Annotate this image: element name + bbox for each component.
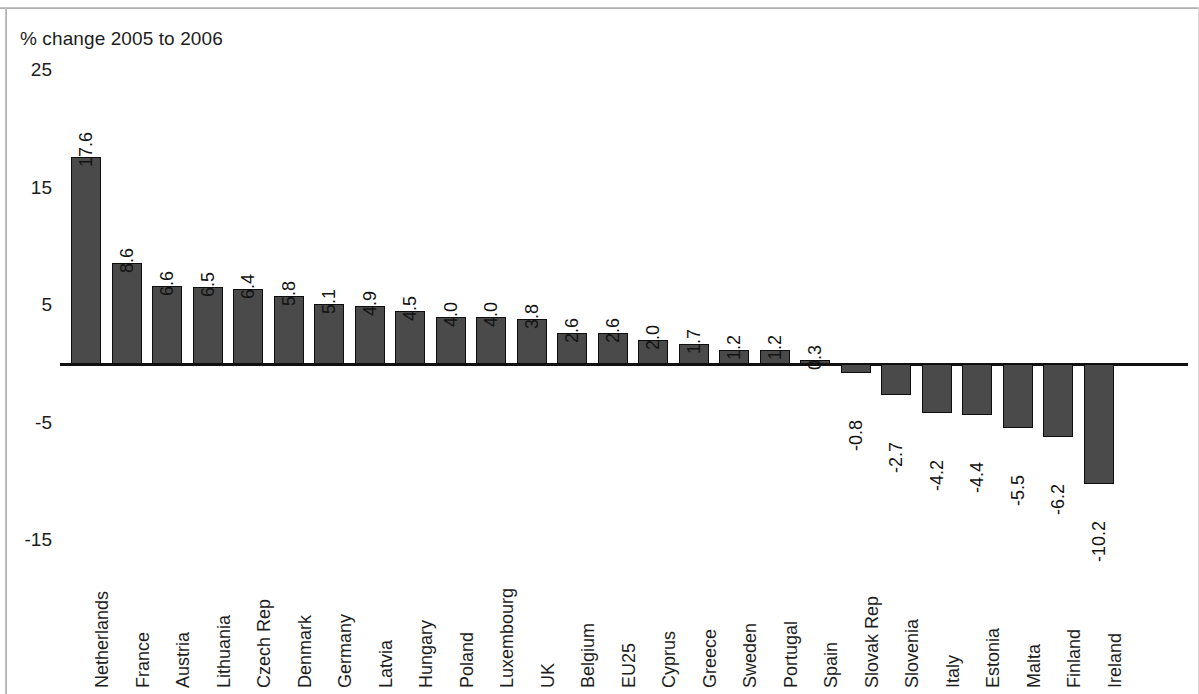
x-category-label: Austria — [174, 632, 192, 688]
bar-value-label: -0.8 — [847, 420, 865, 451]
x-category-label: Poland — [458, 632, 476, 688]
x-category-label: Latvia — [377, 640, 395, 688]
bar-value-label: 6.5 — [199, 272, 217, 297]
x-category-label: Czech Rep — [255, 599, 273, 688]
x-category-label: Lithuania — [215, 615, 233, 688]
x-category-label: France — [134, 632, 152, 688]
bar-value-label: 17.6 — [77, 132, 95, 167]
bar-value-label: 1.2 — [725, 335, 743, 360]
chart-title: % change 2005 to 2006 — [20, 28, 223, 50]
bar — [962, 364, 992, 416]
x-category-label: Belgium — [579, 623, 597, 688]
bar-value-label: 4.0 — [442, 302, 460, 327]
x-category-label: EU25 — [620, 643, 638, 688]
x-category-label: Estonia — [984, 628, 1002, 688]
bar-value-label: -2.7 — [887, 442, 905, 473]
bar-value-label: 8.6 — [118, 248, 136, 273]
bar-value-label: 6.6 — [158, 271, 176, 296]
bar-value-label: 1.2 — [766, 335, 784, 360]
bar-value-label: 6.4 — [239, 274, 257, 299]
bar-value-label: 2.0 — [644, 325, 662, 350]
bar-value-label: 2.6 — [604, 318, 622, 343]
x-category-label: Hungary — [417, 620, 435, 688]
bar — [881, 364, 911, 396]
x-category-label: Slovak Rep — [863, 596, 881, 688]
bar — [71, 157, 101, 364]
x-category-label: Finland — [1065, 629, 1083, 688]
x-category-label: Slovenia — [903, 619, 921, 688]
x-category-label: Italy — [944, 655, 962, 688]
y-tick-label: -15 — [0, 530, 52, 549]
bar-value-label: 1.7 — [685, 329, 703, 354]
bar-value-label: -5.5 — [1009, 475, 1027, 506]
bar — [1043, 364, 1073, 437]
y-tick-label: 15 — [0, 178, 52, 197]
bar-value-label: 5.1 — [320, 289, 338, 314]
x-category-label: Luxembourg — [498, 588, 516, 688]
x-category-label: Germany — [336, 614, 354, 688]
y-tick-label: 5 — [0, 295, 52, 314]
x-category-label: UK — [539, 663, 557, 688]
bar — [922, 364, 952, 413]
x-category-label: Greece — [701, 629, 719, 688]
x-category-label: Ireland — [1106, 633, 1124, 688]
bar-value-label: 4.5 — [401, 296, 419, 321]
x-category-label: Denmark — [296, 615, 314, 688]
bar — [1003, 364, 1033, 429]
bar-value-label: 4.0 — [482, 302, 500, 327]
x-category-label: Sweden — [741, 623, 759, 688]
bar-value-label: -4.4 — [968, 462, 986, 493]
y-tick-label: 25 — [0, 60, 52, 79]
bar-value-label: 4.9 — [361, 291, 379, 316]
x-category-label: Malta — [1025, 644, 1043, 688]
bar — [1084, 364, 1114, 484]
plot-area: 17.68.66.66.56.45.85.14.94.54.04.03.82.6… — [60, 70, 1195, 540]
bar — [841, 364, 871, 373]
bar — [152, 286, 182, 364]
bar — [112, 263, 142, 364]
bar-value-label: -4.2 — [928, 460, 946, 491]
bar — [233, 289, 263, 364]
y-tick-label: -5 — [0, 413, 52, 432]
x-category-label: Spain — [822, 642, 840, 688]
x-category-label: Portugal — [782, 621, 800, 688]
bar-value-label: 5.8 — [280, 281, 298, 306]
bar-value-label: -6.2 — [1049, 484, 1067, 515]
bar — [193, 287, 223, 363]
x-category-label: Netherlands — [93, 591, 111, 688]
x-category-label: Cyprus — [660, 631, 678, 688]
bar-value-label: 3.8 — [523, 304, 541, 329]
bar-value-label: 2.6 — [563, 318, 581, 343]
bar-chart: % change 2005 to 2006 25155-5-15 17.68.6… — [0, 0, 1199, 694]
bar-value-label: 0.3 — [806, 345, 824, 370]
x-axis-category-labels: NetherlandsFranceAustriaLithuaniaCzech R… — [60, 548, 1195, 694]
